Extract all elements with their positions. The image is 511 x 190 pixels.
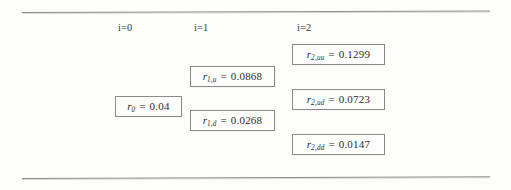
- node-r2ud-equals: =: [329, 94, 335, 105]
- tree-node-r0: r0=0.04: [115, 96, 182, 117]
- node-r1d-math: r1,d=0.0268: [203, 115, 263, 126]
- node-r2dd-math: r2,dd=0.0147: [307, 139, 370, 150]
- node-r2dd-subscript: 2,dd: [311, 145, 324, 152]
- node-r2uu-equals: =: [329, 49, 335, 60]
- tree-node-r2dd: r2,dd=0.0147: [292, 134, 385, 155]
- node-r1d-equals: =: [221, 115, 227, 126]
- node-r2dd-equals: =: [329, 139, 335, 150]
- node-r2uu-value: 0.1299: [339, 49, 370, 60]
- interest-rate-tree-figure: i=0 i=1 i=2 r0=0.04 r1,u=0.0868 r1,d=0.0…: [0, 0, 511, 190]
- node-r2uu-subscript: 2,uu: [311, 55, 324, 62]
- node-r1d-subscript: 1,d: [207, 121, 217, 128]
- node-r2uu-math: r2,uu=0.1299: [307, 49, 370, 60]
- top-horizontal-rule: [22, 11, 490, 13]
- tree-node-r1d: r1,d=0.0268: [190, 110, 275, 131]
- column-header-i2: i=2: [297, 22, 311, 33]
- node-r1u-value: 0.0868: [231, 71, 262, 82]
- column-header-i1: i=1: [194, 22, 208, 33]
- node-r0-subscript: 0: [132, 107, 136, 114]
- node-r2ud-subscript: 2,ud: [311, 100, 324, 107]
- node-r2ud-value: 0.0723: [339, 94, 370, 105]
- tree-node-r1u: r1,u=0.0868: [190, 66, 275, 87]
- node-r0-equals: =: [139, 101, 145, 112]
- node-r0-value: 0.04: [150, 101, 170, 112]
- tree-node-r2ud: r2,ud=0.0723: [292, 89, 385, 110]
- column-header-i0: i=0: [118, 22, 132, 33]
- node-r1d-value: 0.0268: [231, 115, 262, 126]
- node-r1u-equals: =: [221, 71, 227, 82]
- node-r2dd-value: 0.0147: [339, 139, 370, 150]
- node-r0-math: r0=0.04: [127, 101, 169, 112]
- node-r1u-subscript: 1,u: [207, 77, 217, 84]
- tree-node-r2uu: r2,uu=0.1299: [292, 44, 385, 65]
- node-r2ud-math: r2,ud=0.0723: [307, 94, 370, 105]
- node-r1u-math: r1,u=0.0868: [203, 71, 263, 82]
- bottom-horizontal-rule: [22, 176, 490, 179]
